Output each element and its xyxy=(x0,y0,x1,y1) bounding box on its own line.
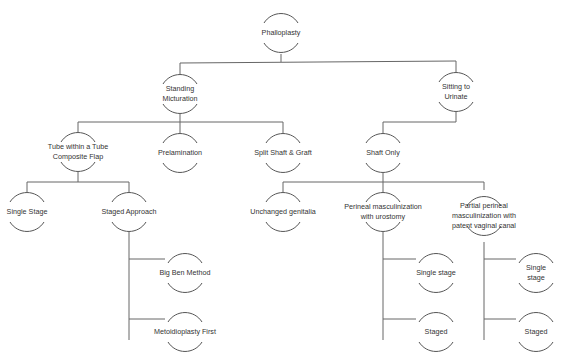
node-unchanged-genitalia: Unchanged genitalia xyxy=(250,207,316,217)
node-perineal-staged: Staged xyxy=(425,327,448,337)
node-staged-approach: Staged Approach xyxy=(101,207,156,217)
node-big-ben-method: Big Ben Method xyxy=(159,268,210,278)
node-sitting-to-urinate: Sitting to Urinate xyxy=(442,82,470,102)
node-metoidioplasty-first: Metoidioplasty First xyxy=(154,327,216,337)
node-partial-perineal-masculinization: Partial perineal masculinization with pa… xyxy=(452,201,516,231)
node-perineal-masculinization: Perineal masculinization with urostomy xyxy=(344,202,422,222)
node-tube-within-a-tube: Tube within a Tube Composite Flap xyxy=(48,142,108,162)
node-prelamination: Prelamination xyxy=(158,148,202,158)
node-shaft-only: Shaft Only xyxy=(366,148,400,158)
node-split-shaft-graft: Split Shaft & Graft xyxy=(254,148,312,158)
node-partial-single-stage: Single stage xyxy=(523,263,549,283)
phalloplasty-tree-diagram: Phalloplasty Standing Micturation Sittin… xyxy=(0,0,562,361)
node-phalloplasty: Phalloplasty xyxy=(262,28,301,38)
node-arcs xyxy=(0,0,562,361)
node-single-stage: Single Stage xyxy=(7,207,48,217)
node-standing-micturation: Standing Micturation xyxy=(162,84,197,104)
node-partial-staged: Staged xyxy=(525,327,548,337)
node-perineal-single-stage: Single stage xyxy=(416,268,456,278)
